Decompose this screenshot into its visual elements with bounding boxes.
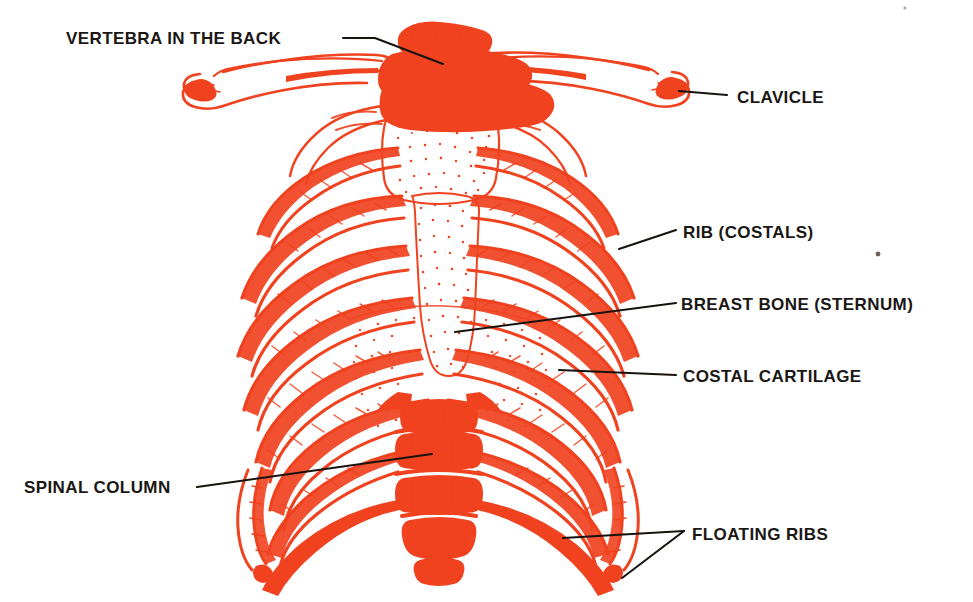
label-rib-costals: RIB (COSTALS) <box>683 223 813 242</box>
label-vertebra-in-the-back: VERTEBRA IN THE BACK <box>66 29 281 48</box>
label-floating-ribs: FLOATING RIBS <box>692 525 828 544</box>
anatomy-diagram: VERTEBRA IN THE BACK CLAVICLE RIB (COSTA… <box>0 0 973 602</box>
scan-speck <box>876 252 881 257</box>
diagram-canvas: VERTEBRA IN THE BACK CLAVICLE RIB (COSTA… <box>0 0 973 602</box>
scan-speck-top <box>903 6 906 9</box>
label-breast-bone-sternum: BREAST BONE (STERNUM) <box>681 295 913 314</box>
label-spinal-column: SPINAL COLUMN <box>24 478 171 497</box>
label-clavicle: CLAVICLE <box>737 88 824 107</box>
label-costal-cartilage: COSTAL CARTILAGE <box>683 367 862 386</box>
